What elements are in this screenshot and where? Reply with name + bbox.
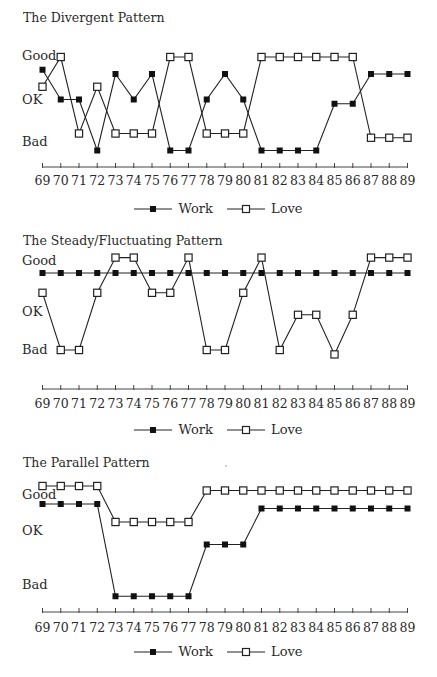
series-work xyxy=(40,501,411,599)
data-point-marker xyxy=(295,148,301,154)
x-tick-label: 70 xyxy=(53,396,69,411)
data-point-marker xyxy=(76,97,82,103)
data-point-marker xyxy=(404,134,411,141)
open-square-marker-icon xyxy=(227,425,265,435)
data-point-marker xyxy=(258,487,265,494)
data-point-marker xyxy=(240,97,246,103)
data-point-marker xyxy=(40,501,46,507)
data-point-marker xyxy=(313,148,319,154)
data-point-marker xyxy=(39,482,46,489)
data-point-marker xyxy=(368,270,374,276)
data-point-marker xyxy=(75,130,82,137)
legend-label-love: Love xyxy=(271,201,303,216)
data-point-marker xyxy=(203,130,210,137)
data-point-marker xyxy=(75,482,82,489)
x-tick-label: 74 xyxy=(126,396,142,411)
data-point-marker xyxy=(386,254,393,261)
data-point-marker xyxy=(39,289,46,296)
x-tick-label: 80 xyxy=(235,620,251,635)
data-point-marker xyxy=(368,71,374,77)
data-point-marker xyxy=(113,593,119,599)
legend-item-love: Love xyxy=(227,644,303,659)
data-point-marker xyxy=(221,130,228,137)
data-point-marker xyxy=(332,101,338,107)
data-point-marker xyxy=(148,518,155,525)
x-tick-label: 83 xyxy=(290,620,306,635)
legend: Work Love xyxy=(0,644,437,660)
data-point-marker xyxy=(112,254,119,261)
x-tick-label: 71 xyxy=(71,396,87,411)
x-tick-label: 82 xyxy=(272,620,288,635)
x-tick-label: 79 xyxy=(217,396,233,411)
data-point-marker xyxy=(313,487,320,494)
x-tick-label: 77 xyxy=(181,396,197,411)
x-tick-label: 75 xyxy=(144,173,160,188)
data-point-marker xyxy=(405,270,411,276)
data-point-marker xyxy=(112,130,119,137)
legend-item-work: Work xyxy=(134,422,212,437)
filled-square-marker-icon xyxy=(134,204,172,214)
data-point-marker xyxy=(167,148,173,154)
data-point-marker xyxy=(222,542,228,548)
x-tick-label: 79 xyxy=(217,173,233,188)
data-point-marker xyxy=(277,506,283,512)
data-point-marker xyxy=(386,506,392,512)
x-tick-label: 81 xyxy=(254,620,270,635)
data-point-marker xyxy=(404,487,411,494)
data-point-marker xyxy=(259,148,265,154)
legend-item-work: Work xyxy=(134,644,212,659)
data-point-marker xyxy=(349,311,356,318)
data-point-marker xyxy=(367,134,374,141)
x-tick-label: 69 xyxy=(35,173,51,188)
data-point-marker xyxy=(276,487,283,494)
data-point-marker xyxy=(331,53,338,60)
x-tick-label: 88 xyxy=(381,173,397,188)
data-point-marker xyxy=(294,311,301,318)
data-point-marker xyxy=(331,351,338,358)
data-point-marker xyxy=(167,53,174,60)
legend-label-work: Work xyxy=(178,644,212,659)
data-point-marker xyxy=(57,53,64,60)
data-point-marker xyxy=(130,518,137,525)
x-tick-label: 84 xyxy=(308,620,324,635)
data-point-marker xyxy=(295,270,301,276)
x-tick-label: 75 xyxy=(144,620,160,635)
data-point-marker xyxy=(185,53,192,60)
x-tick-label: 89 xyxy=(400,173,416,188)
data-point-marker xyxy=(405,506,411,512)
legend-label-work: Work xyxy=(178,422,212,437)
data-point-marker xyxy=(349,487,356,494)
x-axis: 6970717273747576777879808182838485868788… xyxy=(35,608,416,635)
open-square-marker-icon xyxy=(227,204,265,214)
x-tick-label: 69 xyxy=(35,396,51,411)
x-tick-label: 73 xyxy=(108,173,124,188)
x-tick-label: 73 xyxy=(108,396,124,411)
data-point-marker xyxy=(405,71,411,77)
data-point-marker xyxy=(350,270,356,276)
x-tick-label: 78 xyxy=(199,620,215,635)
x-axis: 6970717273747576777879808182838485868788… xyxy=(35,385,416,411)
data-point-marker xyxy=(39,83,46,90)
data-point-marker xyxy=(222,270,228,276)
series-work xyxy=(40,270,411,276)
legend: Work Love xyxy=(0,201,437,217)
data-point-marker xyxy=(386,134,393,141)
data-point-marker xyxy=(313,270,319,276)
x-tick-label: 85 xyxy=(327,620,343,635)
data-point-marker xyxy=(204,542,210,548)
chart-panel-parallel: The Parallel Pattern Good OK Bad 6970717… xyxy=(0,447,437,677)
data-point-marker xyxy=(313,311,320,318)
x-tick-label: 76 xyxy=(162,620,178,635)
series-love xyxy=(39,53,411,141)
data-point-marker xyxy=(130,130,137,137)
data-point-marker xyxy=(386,71,392,77)
data-point-marker xyxy=(113,71,119,77)
data-point-marker xyxy=(149,270,155,276)
x-tick-label: 72 xyxy=(89,620,105,635)
x-tick-label: 87 xyxy=(363,396,379,411)
data-point-marker xyxy=(167,518,174,525)
data-point-marker xyxy=(167,270,173,276)
data-point-marker xyxy=(131,593,137,599)
data-point-marker xyxy=(186,148,192,154)
x-tick-label: 86 xyxy=(345,396,361,411)
